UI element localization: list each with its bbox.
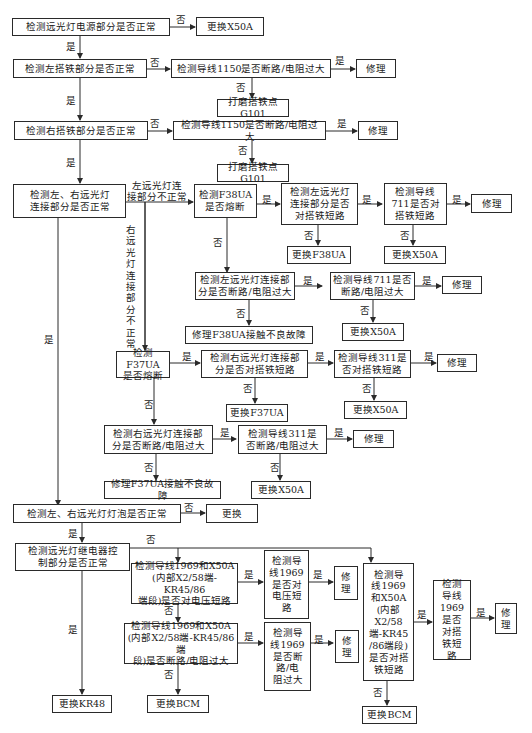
node-1969-voltage-short-check: 检测导线1969和X50A (内部X2/58端-KR45/86 端段)是否对电压… xyxy=(131,563,238,604)
label-left-abnormal: 左远光灯连 接部分不正常 xyxy=(127,180,187,203)
node-replace-bulb: 更换 xyxy=(206,504,258,523)
label-no: 否 xyxy=(373,688,383,698)
node-lamp-connection-check: 检测左、右远光灯 连接部分是否正常 xyxy=(13,184,126,218)
node-f38ua-fuse-check: 检测F38UA 是否熔断 xyxy=(194,184,257,218)
label-yes: 是 xyxy=(476,608,486,618)
node-wire-311-open-check: 检测导线311是 否断路/电阻过大 xyxy=(238,425,327,454)
node-wire-1969-voltage-short: 检测导 线1969 是否对 电压短 路 xyxy=(264,550,309,619)
label-no: 否 xyxy=(236,83,246,93)
label-yes: 是 xyxy=(417,610,427,620)
label-yes: 是 xyxy=(66,96,76,106)
node-wire-1969-ground-short: 检测 导线 1969 是否 对搭 铁短 路 xyxy=(433,580,471,660)
node-wire-711-short-check: 检测导线 711是否对 搭铁短路 xyxy=(384,183,447,225)
label-yes: 是 xyxy=(315,352,325,362)
node-left-ground-check: 检测左搭铁部分是否正常 xyxy=(13,59,147,78)
label-yes: 是 xyxy=(335,56,345,66)
label-yes: 是 xyxy=(313,570,323,580)
node-repair-f37ua-contact: 修理F37UA接触不良故障 xyxy=(104,481,221,499)
label-yes: 是 xyxy=(220,428,230,438)
label-yes: 是 xyxy=(337,119,347,129)
node-repair: 修理 xyxy=(358,121,398,140)
label-yes: 是 xyxy=(244,632,254,642)
node-repair: 修理 xyxy=(353,430,394,448)
label-no: 否 xyxy=(150,58,160,68)
node-repair: 修理 xyxy=(437,354,477,372)
label-yes: 是 xyxy=(66,158,76,168)
node-relay-control-check: 检测远光灯继电器控 制部分是否正常 xyxy=(15,543,130,571)
label-yes: 是 xyxy=(68,529,78,539)
label-no: 否 xyxy=(144,463,154,473)
node-replace-kr48: 更换KR48 xyxy=(52,695,112,713)
label-no: 否 xyxy=(400,231,410,241)
node-wire-311-short-check: 检测导线311是 否对搭铁短路 xyxy=(334,350,411,378)
label-yes: 是 xyxy=(44,335,54,345)
node-wire-1150-check-right: 检测导线1150是否断路/电阻过大 xyxy=(173,121,326,140)
label-yes: 是 xyxy=(66,42,76,52)
node-repair: 修理 xyxy=(471,194,512,213)
node-f37ua-fuse-check: 检测F37UA 是否熔断 xyxy=(116,351,170,378)
label-yes: 是 xyxy=(422,276,432,286)
node-repair: 修理 xyxy=(442,276,482,294)
label-no: 否 xyxy=(362,384,372,394)
label-no: 否 xyxy=(238,146,248,156)
label-yes: 是 xyxy=(182,352,192,362)
node-replace-x50a: 更换X50A xyxy=(251,481,311,499)
node-replace-bcm: 更换BCM xyxy=(147,695,209,713)
node-right-ground-check: 检测右搭铁部分是否正常 xyxy=(14,121,148,140)
label-yes: 是 xyxy=(68,625,78,635)
label-no: 否 xyxy=(150,119,160,129)
node-repair: 修 理 xyxy=(335,630,359,663)
node-replace-x50a: 更换X50A xyxy=(342,323,404,341)
node-replace-f38ua: 更换F38UA xyxy=(287,246,351,264)
label-yes: 是 xyxy=(334,428,344,438)
label-yes: 是 xyxy=(452,195,462,205)
node-left-conn-short-check: 检测左远光灯 连接部分是否 对搭铁短路 xyxy=(281,183,358,225)
node-left-conn-open-check: 检测左远光灯连接部 分是否断路/电阻过大 xyxy=(195,272,295,300)
node-1969-ground-short-check: 检测导 线1969 和X50A (内部X2/58 端-KR45 /86端段) 是… xyxy=(363,563,414,681)
node-wire-1969-open: 检测导 线1969 是否断 路/电 阻过大 xyxy=(264,622,311,691)
label-yes: 是 xyxy=(362,195,372,205)
node-grind-g101-left: 打磨搭铁点G101 xyxy=(217,99,289,117)
node-bulb-check: 检测左、右远光灯灯泡是否正常 xyxy=(13,504,181,523)
node-replace-bcm: 更换BCM xyxy=(362,706,417,724)
label-no: 否 xyxy=(176,15,186,25)
label-yes: 是 xyxy=(424,352,434,362)
label-no: 否 xyxy=(164,670,174,680)
node-power-check: 检测远光灯电源部分是否正常 xyxy=(12,18,170,36)
label-no: 否 xyxy=(243,384,253,394)
node-replace-x50a: 更换X50A xyxy=(344,401,407,419)
node-repair-f38ua-contact: 修理F38UA接触不良故障 xyxy=(185,326,313,344)
label-no: 否 xyxy=(270,463,280,473)
node-1969-open-check: 检测导线1969和X50A (内部X2/58端-KR45/86端 段)是否断路/… xyxy=(124,623,238,664)
node-replace-x50a: 更换X50A xyxy=(384,246,446,264)
node-wire-711-open-check: 检测导线711是否 断路/电阻过大 xyxy=(330,272,415,300)
label-no: 否 xyxy=(144,400,154,410)
label-yes: 是 xyxy=(262,195,272,205)
label-yes: 是 xyxy=(314,635,324,645)
label-no: 否 xyxy=(184,503,194,513)
node-replace-f37ua: 更换F37UA xyxy=(226,404,288,422)
node-repair: 修 理 xyxy=(334,566,358,600)
label-yes: 是 xyxy=(303,276,313,286)
node-wire-1150-check-left: 检测导线1150是否断路/电阻过大 xyxy=(171,59,331,78)
label-right-abnormal: 右远光灯连接部分不正常 xyxy=(125,224,136,349)
node-right-conn-short-check: 检测右远光灯连接部 分是否对搭铁短路 xyxy=(201,350,308,378)
node-right-conn-open-check: 检测右远光灯连接部 分是否断路/电阻过大 xyxy=(104,425,213,454)
label-no: 否 xyxy=(146,535,156,545)
label-no: 否 xyxy=(304,231,314,241)
node-repair: 修 理 xyxy=(495,603,517,634)
label-no: 否 xyxy=(360,306,370,316)
node-repair: 修理 xyxy=(356,59,396,78)
label-yes: 是 xyxy=(244,570,254,580)
label-no: 否 xyxy=(213,238,223,248)
node-replace-x50a: 更换X50A xyxy=(196,17,264,36)
label-no: 否 xyxy=(236,309,246,319)
node-grind-g101-right: 打磨搭铁点G101 xyxy=(217,164,289,182)
label-no: 否 xyxy=(164,606,174,616)
